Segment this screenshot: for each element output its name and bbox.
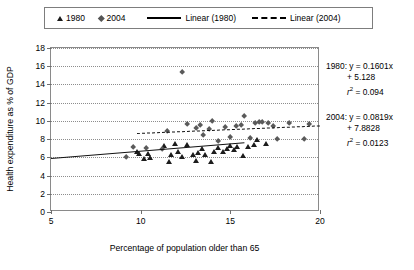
- data-point-1980: [195, 150, 201, 155]
- y-axis-tick-label: 10: [36, 116, 45, 126]
- x-axis-tick-label: 20: [315, 216, 324, 226]
- dashed-line-icon: [252, 17, 286, 19]
- x-axis-tick-label: 5: [49, 216, 54, 226]
- data-point-2004: [242, 113, 248, 119]
- legend-label-1980: 1980: [66, 13, 85, 23]
- grid-line: [51, 48, 318, 49]
- y-axis-tick: [47, 84, 51, 85]
- y-axis-tick-label: 0: [40, 207, 45, 217]
- chart-legend: 1980 2004 Linear (1980) Linear (2004): [44, 7, 373, 29]
- data-point-2004: [184, 121, 190, 127]
- data-point-2004: [179, 69, 185, 75]
- x-axis-tick: [141, 210, 142, 214]
- data-point-2004: [274, 136, 280, 142]
- solid-line-icon: [147, 17, 181, 19]
- legend-item-2004: 2004: [99, 13, 126, 23]
- legend-item-1980: 1980: [57, 13, 85, 23]
- grid-line: [51, 84, 318, 85]
- data-point-1980: [251, 142, 257, 147]
- legend-label-linear-1980: Linear (1980): [185, 13, 236, 23]
- data-point-1980: [147, 155, 153, 160]
- x-axis-tick-label: 15: [226, 216, 235, 226]
- data-point-1980: [202, 152, 208, 157]
- y-axis-tick-label: 6: [40, 152, 45, 162]
- anno-2004-line1: 2004: y = 0.0819x: [326, 112, 393, 122]
- data-point-2004: [247, 135, 253, 141]
- legend-item-linear-2004: Linear (2004): [252, 13, 341, 23]
- data-point-1980: [263, 141, 269, 146]
- annotation-1980: 1980: y = 0.1601x + 5.128 r2 = 0.094: [326, 61, 393, 98]
- data-point-2004: [123, 154, 129, 160]
- chart-figure: 1980 2004 Linear (1980) Linear (2004) He…: [0, 0, 414, 270]
- y-axis-tick: [47, 176, 51, 177]
- y-axis-title: Health expenditure as % of GDP: [3, 47, 16, 211]
- x-axis-tick: [51, 210, 52, 214]
- grid-line: [51, 103, 318, 104]
- y-axis-tick-label: 16: [36, 61, 45, 71]
- plot-inner: 0246810121416185101520: [51, 48, 318, 210]
- data-point-1980: [179, 154, 185, 159]
- y-axis-tick: [47, 103, 51, 104]
- data-point-1980: [211, 149, 217, 154]
- annotation-2004: 2004: y = 0.0819x + 7.8828 r2 = 0.0123: [326, 112, 393, 149]
- data-point-1980: [234, 144, 240, 149]
- grid-line: [51, 121, 318, 122]
- y-axis-tick: [47, 194, 51, 195]
- x-axis-tick: [320, 210, 321, 214]
- grid-line: [51, 176, 318, 177]
- y-axis-tick-label: 8: [40, 134, 45, 144]
- x-axis-tick: [230, 210, 231, 214]
- y-axis-tick-label: 2: [40, 189, 45, 199]
- y-axis-tick-label: 4: [40, 171, 45, 181]
- data-point-2004: [209, 118, 215, 124]
- y-axis-tick-label: 14: [36, 79, 45, 89]
- legend-item-linear-1980: Linear (1980): [147, 13, 236, 23]
- anno-1980-line1: 1980: y = 0.1601x: [326, 61, 393, 71]
- x-axis-tick-label: 10: [136, 216, 145, 226]
- anno-1980-line2: + 5.128: [347, 72, 375, 82]
- data-point-1980: [208, 159, 214, 164]
- plot-area: 0246810121416185101520: [50, 47, 319, 211]
- data-point-2004: [200, 132, 206, 138]
- legend-label-2004: 2004: [107, 13, 126, 23]
- triangle-marker-icon: [57, 16, 63, 21]
- diamond-marker-icon: [98, 15, 104, 21]
- y-axis-tick-label: 18: [36, 43, 45, 53]
- anno-2004-r2val: = 0.0123: [353, 138, 388, 148]
- grid-line: [51, 66, 318, 67]
- data-point-1980: [254, 137, 260, 142]
- data-point-1980: [168, 152, 174, 157]
- data-point-1980: [172, 141, 178, 146]
- data-point-1980: [166, 159, 172, 164]
- legend-label-linear-2004: Linear (2004): [290, 13, 341, 23]
- x-axis-title: Percentage of population older than 65: [50, 243, 319, 253]
- grid-line: [51, 194, 318, 195]
- y-axis-tick: [47, 66, 51, 67]
- y-axis-tick: [47, 139, 51, 140]
- y-axis-tick-label: 12: [36, 98, 45, 108]
- y-axis-tick: [47, 121, 51, 122]
- data-point-1980: [193, 158, 199, 163]
- y-axis-tick: [47, 48, 51, 49]
- anno-1980-r2val: = 0.094: [353, 87, 384, 97]
- anno-2004-line2: + 7.8828: [347, 123, 380, 133]
- data-point-1980: [240, 153, 246, 158]
- data-point-2004: [301, 136, 307, 142]
